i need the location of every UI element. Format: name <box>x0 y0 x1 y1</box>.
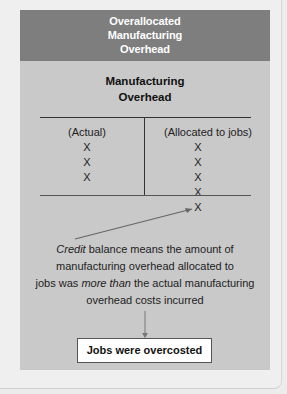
italic-credit: Credit <box>56 243 85 255</box>
diagram-panel: Overallocated Manufacturing Overhead Man… <box>20 10 270 370</box>
diagram-header: Overallocated Manufacturing Overhead <box>20 10 270 61</box>
italic-more-than: more than <box>81 277 131 289</box>
explanation-line-3: jobs was more than the actual manufactur… <box>20 275 270 292</box>
text-span: balance means the amount of <box>86 243 234 255</box>
lower-section: X Credit balance means the amount of man… <box>20 71 270 371</box>
header-line: Manufacturing <box>20 28 270 42</box>
pointer-line <box>75 209 192 239</box>
arrow-lines <box>20 71 270 371</box>
result-box: Jobs were overcosted <box>77 338 212 363</box>
explanation-line-2: manufacturing overhead allocated to <box>20 258 270 275</box>
explanation-line-4: overhead costs incurred <box>20 292 270 309</box>
text-span: the actual manufacturing <box>131 277 255 289</box>
header-line: Overhead <box>20 42 270 56</box>
explanation-line-1: Credit balance means the amount of <box>20 241 270 258</box>
text-span: jobs was <box>36 277 82 289</box>
header-line: Overallocated <box>20 14 270 28</box>
explanation-text: Credit balance means the amount of manuf… <box>20 241 270 309</box>
